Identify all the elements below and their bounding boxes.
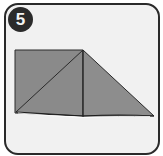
paper-triangle-flap xyxy=(83,50,154,116)
origami-diagram xyxy=(0,0,163,156)
